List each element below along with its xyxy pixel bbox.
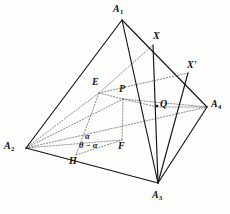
geometry-figure: A1 A2 A3 A4 X X' E P Q F H α θ − α — [0, 0, 230, 214]
point-label-X-prime: X' — [187, 60, 196, 70]
vertex-label-A2: A2 — [4, 141, 14, 153]
dotted-P-F — [122, 99, 123, 140]
dotted-A2-P — [26, 99, 123, 148]
point-label-H: H — [69, 156, 77, 166]
point-label-E: E — [92, 77, 99, 87]
point-marker-Q — [156, 105, 159, 108]
vertex-label-A4: A4 — [211, 99, 221, 111]
edge-A1-A3 — [122, 20, 158, 183]
dotted-E-Xp — [99, 73, 188, 93]
segment-Xp-A3 — [158, 73, 188, 183]
angle-label-theta-minus-alpha: θ − α — [79, 141, 98, 150]
point-label-P: P — [119, 84, 125, 94]
diagram-canvas — [0, 0, 230, 214]
point-label-Q: Q — [160, 99, 167, 109]
edge-A1-A2 — [26, 20, 122, 148]
dotted-A2-F — [26, 140, 122, 148]
edge-A3-A4 — [158, 107, 207, 183]
vertex-label-A3: A3 — [152, 190, 162, 202]
dotted-line-group — [26, 45, 207, 155]
point-label-F: F — [118, 141, 125, 151]
dotted-E-X — [99, 45, 153, 93]
edge-A2-A3 — [26, 148, 158, 183]
vertex-label-A1: A1 — [113, 4, 123, 16]
solid-edge-group — [26, 20, 207, 183]
point-label-X: X — [153, 31, 160, 41]
